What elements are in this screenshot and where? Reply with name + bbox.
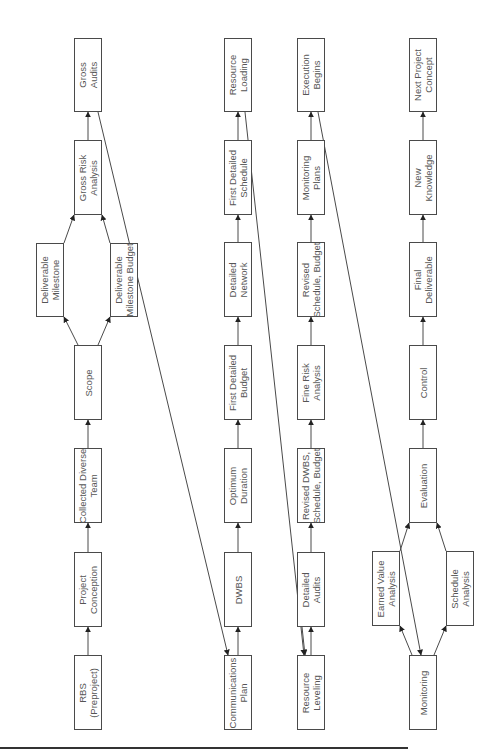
node-label: Revised DWBS, Schedule, Budget [300, 448, 322, 523]
node-monitoring-plans: Monitoring Plans [297, 140, 325, 215]
node-deliverable-milestone: Deliverable Milestone [36, 243, 64, 317]
node-gross-risk-analysis: Gross Risk Analysis [74, 140, 102, 215]
node-label: Monitoring [418, 670, 429, 714]
node-label: Gross Risk Analysis [77, 154, 99, 200]
node-next-project-concept: Next Project Concept [409, 38, 437, 112]
node-label: Communications Plan [227, 657, 249, 728]
node-evaluation: Evaluation [409, 448, 437, 523]
node-scope: Scope [74, 345, 102, 420]
node-label: First Detailed Schedule [227, 150, 249, 206]
arrow-monitoring-to-earned-value-analysis [400, 626, 412, 655]
node-detailed-network: Detailed Network [224, 242, 252, 317]
node-fine-risk-analysis: Fine Risk Analysis [297, 345, 325, 420]
node-new-knowledge: New Knowledge [409, 140, 437, 215]
arrow-gross-audits-to-communications-plan [98, 112, 228, 655]
node-detailed-audits: Detailed Audits [297, 552, 325, 627]
node-resource-leveling: Resource Leveling [297, 655, 325, 730]
node-label: Optimum Duration [227, 466, 249, 505]
node-label: Schedule Analysis [449, 569, 471, 609]
node-monitoring: Monitoring [409, 655, 437, 730]
arrow-resource-loading-to-resource-leveling [245, 112, 304, 655]
arrow-schedule-analysis-to-evaluation [437, 523, 446, 551]
node-execution-begins: Execution Begins [297, 38, 325, 112]
node-label: Final Deliverable [412, 256, 434, 304]
node-label: Resource Loading [227, 55, 249, 96]
node-label: Detailed Audits [300, 572, 322, 607]
node-deliverable-milestone-budget: Deliverable Milestone Budget [110, 243, 138, 317]
node-label: DWBS [233, 575, 244, 604]
node-label: Detailed Network [227, 262, 249, 297]
node-label: Resource Leveling [300, 672, 322, 713]
node-gross-audits: Gross Audits [74, 38, 102, 112]
node-communications-plan: Communications Plan [224, 655, 252, 730]
node-control: Control [409, 345, 437, 420]
node-label: Execution Begins [300, 54, 322, 96]
node-label: Deliverable Milestone Budget [113, 243, 135, 316]
arrow-execution-begins-to-monitoring [318, 112, 421, 655]
node-label: New Knowledge [412, 154, 434, 201]
node-label: Evaluation [418, 463, 429, 507]
node-project-conception: Project Conception [74, 552, 102, 627]
arrow-deliverable-milestone-budget-to-gross-risk-analysis [102, 215, 110, 243]
node-first-detailed-schedule: First Detailed Schedule [224, 140, 252, 215]
node-label: Monitoring Plans [300, 155, 322, 199]
bottom-rule-divider [0, 747, 408, 749]
node-label: First Detailed Budget [227, 355, 249, 411]
node-label: Next Project Concept [412, 49, 434, 101]
node-earned-value-analysis: Earned Value Analysis [372, 551, 400, 626]
node-label: Deliverable Milestone [39, 256, 61, 304]
node-label: Scope [83, 369, 94, 396]
node-label: Revised Schedule, Budget [300, 242, 322, 317]
node-rbs: RBS (Preproject) [74, 655, 102, 730]
node-label: Project Conception [77, 565, 99, 613]
node-resource-loading: Resource Loading [224, 38, 252, 112]
node-label: Earned Value Analysis [375, 560, 397, 617]
node-dwbs: DWBS [224, 552, 252, 627]
arrow-monitoring-to-schedule-analysis [434, 626, 446, 655]
node-revised-schedule-budget: Revised Schedule, Budget [297, 242, 325, 317]
node-label: Fine Risk Analysis [300, 363, 322, 403]
arrow-scope-to-deliverable-milestone-budget [98, 317, 110, 345]
node-revised-dwbs-schedule-budget: Revised DWBS, Schedule, Budget [297, 448, 325, 523]
node-schedule-analysis: Schedule Analysis [446, 551, 474, 626]
node-final-deliverable: Final Deliverable [409, 242, 437, 317]
node-label: Gross Audits [77, 62, 99, 88]
arrow-earned-value-analysis-to-evaluation [400, 523, 409, 551]
arrow-scope-to-deliverable-milestone [64, 317, 78, 345]
node-optimum-duration: Optimum Duration [224, 448, 252, 523]
node-collected-diverse-team: Collected Diverse Team [74, 448, 102, 523]
node-label: Control [418, 367, 429, 398]
arrow-deliverable-milestone-to-gross-risk-analysis [64, 215, 74, 243]
node-label: RBS (Preproject) [77, 668, 99, 718]
node-first-detailed-budget: First Detailed Budget [224, 345, 252, 420]
node-label: Collected Diverse Team [77, 448, 99, 522]
